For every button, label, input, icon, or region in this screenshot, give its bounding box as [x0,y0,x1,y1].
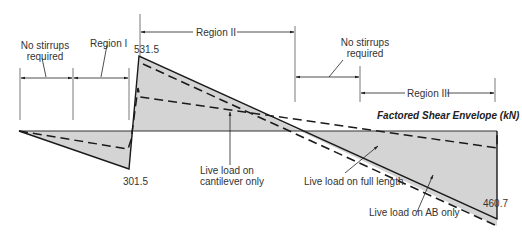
region-3-label: Region III [407,88,450,99]
chart-title: Factored Shear Envelope (kN) [377,110,519,121]
label-line: No stirrups [20,40,70,51]
region-1-label: Region I [90,38,127,49]
label-line: required [20,51,70,62]
label-line: No stirrups [335,37,395,48]
right-negative-value: 460.7 [483,198,508,209]
ab-only-label: Live load on AB only [369,207,460,218]
no-stirrups-left-label: No stirrups required [20,40,70,62]
envelope-fill [19,56,497,226]
left-negative-value: 301.5 [123,176,148,187]
label-line: Live load on [200,165,264,176]
label-line: cantilever only [200,176,264,187]
cantilever-only-label: Live load on cantilever only [200,165,264,187]
no-stirrups-right-label: No stirrups required [335,37,395,59]
full-length-label: Live load on full length [304,176,404,187]
peak-positive-value: 531.5 [134,44,159,55]
region-2-label: Region II [196,27,236,38]
dimension-lines [20,14,495,120]
label-line: required [335,48,395,59]
